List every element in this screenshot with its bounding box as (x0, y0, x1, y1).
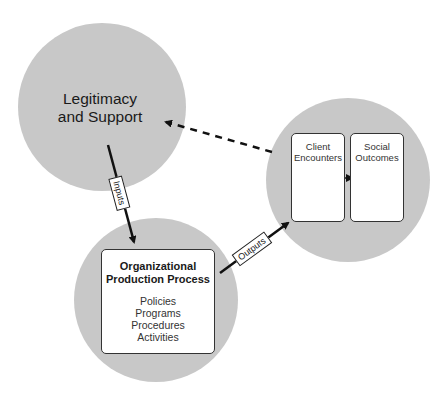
production-item: Activities (101, 331, 215, 343)
legitimacy-label-line1: Legitimacy (40, 90, 160, 108)
production-items: Policies Programs Procedures Activities (101, 295, 215, 343)
diagram-canvas: Legitimacy and Support Organizational Pr… (0, 0, 446, 401)
production-title-line1: Organizational (101, 260, 215, 273)
production-process-title: Organizational Production Process (101, 260, 215, 285)
feedback-dashed-arrow (166, 122, 272, 152)
production-item: Procedures (101, 319, 215, 331)
legitimacy-label-line2: and Support (40, 108, 160, 126)
client-encounters-label: Client Encounters (291, 142, 345, 164)
production-item: Programs (101, 307, 215, 319)
social-label-line2: Outcomes (350, 153, 404, 164)
production-item: Policies (101, 295, 215, 307)
client-label-line2: Encounters (291, 153, 345, 164)
social-outcomes-label: Social Outcomes (350, 142, 404, 164)
production-title-line2: Production Process (101, 273, 215, 286)
legitimacy-label: Legitimacy and Support (40, 90, 160, 126)
